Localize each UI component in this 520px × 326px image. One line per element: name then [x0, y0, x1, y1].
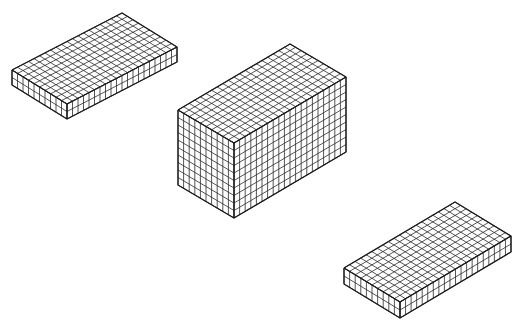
- isometric-blocks-figure: [0, 0, 520, 326]
- diagram-canvas: [0, 0, 520, 326]
- flat-block-bottom-right: [344, 202, 511, 318]
- flat-block-top-left: [12, 13, 177, 119]
- tall-block-center: [178, 44, 346, 218]
